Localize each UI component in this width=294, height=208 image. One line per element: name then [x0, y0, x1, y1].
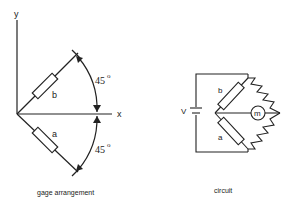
circuit-gage-a-label: a — [218, 133, 223, 142]
gage-b-label: b — [52, 90, 57, 100]
strain-gage-figure: y x b a 45 o 45 o gage arrangement V b a… — [0, 0, 294, 208]
voltage-label: V — [181, 107, 187, 116]
x-axis-label: x — [117, 109, 122, 119]
meter-label: m — [254, 109, 261, 118]
angle-arc-lower — [78, 116, 97, 170]
degree-symbol: o — [107, 141, 111, 149]
arrowhead — [93, 116, 101, 123]
arrowhead — [93, 105, 101, 112]
circuit-caption: circuit — [214, 187, 232, 194]
angle-upper-label: 45 — [95, 75, 105, 86]
circuit-gage-b-label: b — [218, 86, 223, 95]
degree-symbol: o — [107, 72, 111, 80]
circuit-diagram — [190, 74, 280, 152]
gage-arrangement-caption: gage arrangement — [37, 189, 94, 197]
y-axis-label: y — [14, 9, 19, 19]
gage-a-label: a — [52, 129, 57, 139]
angle-lower-label: 45 — [95, 144, 105, 155]
